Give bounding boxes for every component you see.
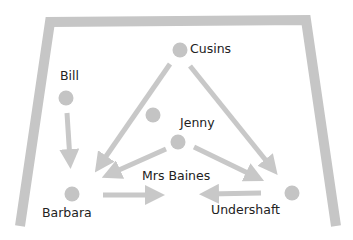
node-undershaft <box>285 186 300 201</box>
node-barbara <box>65 187 80 202</box>
edge-bill-barbara <box>67 113 70 160</box>
label-mrs-baines: Mrs Baines <box>142 170 210 183</box>
node-bill <box>59 91 74 106</box>
node-jenny <box>171 135 186 150</box>
label-undershaft: Undershaft <box>211 204 280 217</box>
label-barbara: Barbara <box>42 207 92 220</box>
node-cusins <box>173 43 188 58</box>
label-jenny: Jenny <box>180 117 215 130</box>
label-bill: Bill <box>60 70 79 83</box>
edge-undershaft-mrsbaines <box>208 193 261 194</box>
relationship-diagram: Cusins Bill Jenny Mrs Baines Barbara Und… <box>0 0 353 240</box>
label-cusins: Cusins <box>190 43 231 56</box>
diagram-canvas <box>0 0 353 240</box>
node-unlabeled <box>146 108 161 123</box>
